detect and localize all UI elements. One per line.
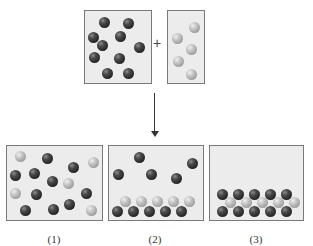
light-atom: [120, 196, 131, 207]
arrow-down-icon: [151, 131, 159, 137]
light-atom: [10, 188, 21, 199]
dark-atom: [160, 206, 171, 217]
light-atom: [88, 157, 99, 168]
light-atom: [241, 197, 252, 208]
dark-atom: [81, 188, 92, 199]
dark-atom: [123, 68, 134, 79]
light-atom: [184, 196, 195, 207]
product-label-2: (2): [135, 233, 175, 245]
dark-atom: [89, 52, 100, 63]
dark-atom: [48, 204, 59, 215]
dark-atom: [99, 17, 110, 28]
dark-atom: [102, 68, 113, 79]
plus-sign: +: [153, 36, 161, 50]
dark-atom: [68, 162, 79, 173]
dark-atom: [233, 206, 244, 217]
dark-atom: [88, 32, 99, 43]
product-label-3: (3): [236, 233, 276, 245]
dark-atom: [64, 199, 75, 210]
dark-atom: [171, 173, 182, 184]
dark-atom: [10, 170, 21, 181]
dark-atom: [97, 40, 108, 51]
dark-atom: [20, 205, 31, 216]
dark-atom: [187, 158, 198, 169]
dark-atom: [29, 168, 40, 179]
light-atom: [63, 178, 74, 189]
light-atom: [273, 197, 284, 208]
dark-atom: [134, 42, 145, 53]
dark-atom: [217, 206, 228, 217]
dark-atom: [113, 169, 124, 180]
light-atom: [189, 22, 200, 33]
dark-atom: [146, 169, 157, 180]
light-atom: [86, 205, 97, 216]
light-atom: [136, 196, 147, 207]
dark-atom: [42, 153, 53, 164]
dark-atom: [31, 189, 42, 200]
light-atom: [173, 56, 184, 67]
light-atom: [186, 69, 197, 80]
dark-atom: [128, 206, 139, 217]
dark-atom: [115, 31, 126, 42]
dark-atom: [265, 206, 276, 217]
light-atom: [225, 197, 236, 208]
dark-atom: [249, 206, 260, 217]
light-atom: [15, 151, 26, 162]
light-atom: [257, 197, 268, 208]
dark-atom: [176, 206, 187, 217]
light-atom: [152, 196, 163, 207]
dark-atom: [144, 206, 155, 217]
light-atom: [186, 44, 197, 55]
product-label-1: (1): [34, 233, 74, 245]
dark-atom: [114, 53, 125, 64]
dark-atom: [134, 152, 145, 163]
arrow-shaft: [154, 93, 155, 133]
dark-atom: [281, 206, 292, 217]
light-atom: [168, 196, 179, 207]
light-atom: [289, 197, 300, 208]
dark-atom: [123, 18, 134, 29]
light-atom: [172, 33, 183, 44]
dark-atom: [47, 176, 58, 187]
dark-atom: [112, 206, 123, 217]
